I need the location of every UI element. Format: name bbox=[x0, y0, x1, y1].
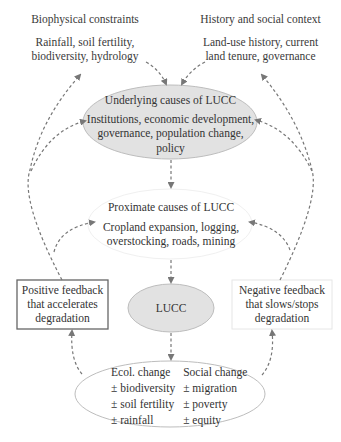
negative-line-1: Negative feedback bbox=[232, 283, 332, 297]
arrow-outcomes-to-negative-feedback bbox=[262, 331, 273, 375]
arrow-biophysical-to-underlying bbox=[146, 62, 166, 84]
lucc-label: LUCC bbox=[131, 301, 211, 316]
underlying-line-3: policy bbox=[83, 141, 258, 156]
negative-line-2: that slows/stops bbox=[232, 297, 332, 311]
biophysical-line-2: biodiversity, hydrology bbox=[20, 49, 150, 63]
arrow-positive-to-biophysical bbox=[28, 75, 80, 280]
negative-feedback-text: Negative feedback that slows/stops degra… bbox=[232, 283, 332, 325]
social-item: ± migration bbox=[183, 380, 247, 396]
positive-feedback-text: Positive feedback that accelerates degra… bbox=[17, 283, 108, 325]
negative-line-3: degradation bbox=[232, 311, 332, 325]
biophysical-constraints-block: Biophysical constraints Rainfall, soil f… bbox=[20, 12, 150, 63]
arrow-negative-to-underlying bbox=[256, 120, 312, 171]
arrow-negative-to-proximate bbox=[250, 222, 290, 250]
biophysical-line-1: Rainfall, soil fertility, bbox=[20, 35, 150, 49]
biophysical-constraints-title: Biophysical constraints bbox=[20, 12, 150, 26]
underlying-line-2: governance, population change, bbox=[83, 126, 258, 141]
social-change-column: Social change ± migration ± poverty ± eq… bbox=[183, 364, 247, 428]
arrow-negative-to-history bbox=[262, 75, 313, 280]
proximate-line-2: overstocking, roads, mining bbox=[90, 234, 252, 249]
arrow-history-to-underlying bbox=[182, 62, 205, 84]
underlying-causes-title: Underlying causes of LUCC bbox=[83, 93, 258, 108]
proximate-causes-text: Proximate causes of LUCC Cropland expans… bbox=[90, 200, 252, 249]
history-line-1: Land-use history, current bbox=[188, 35, 333, 49]
underlying-causes-text: Underlying causes of LUCC Institutions, … bbox=[83, 93, 258, 155]
ecol-item: ± biodiversity bbox=[111, 380, 175, 396]
history-line-2: land tenure, governance bbox=[188, 49, 333, 63]
positive-line-1: Positive feedback bbox=[17, 283, 108, 297]
social-item: ± poverty bbox=[183, 396, 247, 412]
proximate-causes-title: Proximate causes of LUCC bbox=[90, 200, 252, 215]
history-social-context-block: History and social context Land-use hist… bbox=[188, 12, 333, 63]
social-item: ± equity bbox=[183, 412, 247, 428]
positive-line-3: degradation bbox=[17, 311, 108, 325]
outcomes-text: Ecol. change ± biodiversity ± soil ferti… bbox=[111, 364, 247, 428]
ecol-change-column: Ecol. change ± biodiversity ± soil ferti… bbox=[111, 364, 175, 428]
social-change-title: Social change bbox=[183, 364, 247, 380]
positive-line-2: that accelerates bbox=[17, 297, 108, 311]
arrow-outcomes-to-positive-feedback bbox=[72, 331, 82, 374]
underlying-line-1: Institutions, economic development, bbox=[83, 112, 258, 127]
ecol-item: ± soil fertility bbox=[111, 396, 175, 412]
proximate-line-1: Cropland expansion, logging, bbox=[90, 220, 252, 235]
ecol-item: ± rainfall bbox=[111, 412, 175, 428]
history-social-context-title: History and social context bbox=[188, 12, 333, 26]
ecol-change-title: Ecol. change bbox=[111, 364, 175, 380]
arrow-positive-to-underlying bbox=[31, 121, 85, 171]
